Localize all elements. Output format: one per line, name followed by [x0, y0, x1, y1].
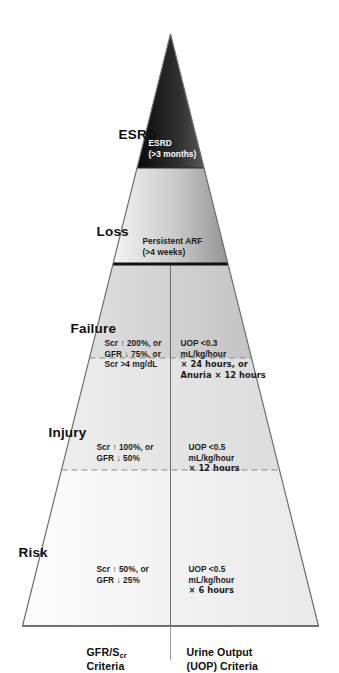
criteria-risk-uop-line-3: × 6 hours — [188, 585, 234, 596]
criteria-failure-uop-line-3: × 24 hours, or — [180, 359, 265, 370]
criteria-loss-line-2: (>4 weeks) — [142, 247, 202, 258]
axis-title-gfr-scr-line-1: GFR/Scr — [86, 646, 126, 660]
criteria-risk-gfr-scr-line-2: GFR ↓ 25% — [96, 575, 148, 586]
axis-title-urine-output-line-1: Urine Output — [186, 646, 257, 660]
stage-label-loss: Loss — [96, 223, 128, 240]
axis-title-gfr-scr-subscript: cr — [119, 651, 126, 660]
criteria-injury-gfr-scr: Scr ↑ 100%, or GFR ↓ 50% — [96, 442, 153, 463]
stage-label-risk: Risk — [18, 544, 47, 561]
criteria-loss-line-1: Persistent ARF — [142, 236, 202, 247]
criteria-injury-gfr-scr-line-2: GFR ↓ 50% — [96, 453, 153, 464]
criteria-esrd-line-1: ESRD — [148, 138, 196, 149]
axis-title-gfr-scr-text: GFR/S — [86, 646, 119, 658]
criteria-risk-uop-line-1: UOP <0.5 — [188, 564, 234, 575]
criteria-risk-gfr-scr-line-1: Scr ↑ 50%, or — [96, 564, 148, 575]
criteria-esrd-body: ESRD (>3 months) — [148, 138, 196, 159]
stage-label-failure: Failure — [70, 320, 116, 337]
criteria-failure-uop-line-4: Anuria × 12 hours — [180, 370, 265, 381]
criteria-injury-uop-line-2: mL/kg/hour — [188, 453, 239, 464]
criteria-failure-gfr-scr: Scr ↑ 200%, or GFR ↓ 75%, or Scr >4 mg/d… — [104, 338, 161, 370]
criteria-failure-uop: UOP <0.3 mL/kg/hour × 24 hours, or Anuri… — [180, 338, 265, 380]
criteria-risk-uop-line-2: mL/kg/hour — [188, 575, 234, 586]
criteria-failure-gfr-scr-line-3: Scr >4 mg/dL — [104, 359, 161, 370]
axis-title-gfr-scr-line-2: Criteria — [86, 660, 126, 673]
criteria-injury-uop-line-3: × 12 hours — [188, 463, 239, 474]
criteria-esrd-line-2: (>3 months) — [148, 149, 196, 160]
criteria-failure-gfr-scr-line-1: Scr ↑ 200%, or — [104, 338, 161, 349]
stage-label-injury: Injury — [48, 424, 86, 441]
axis-title-gfr-scr: GFR/Scr Criteria — [86, 646, 126, 673]
axis-title-urine-output: Urine Output (UOP) Criteria — [186, 646, 257, 673]
criteria-failure-uop-line-2: mL/kg/hour — [180, 349, 265, 360]
axis-title-urine-output-line-2: (UOP) Criteria — [186, 660, 257, 673]
criteria-failure-gfr-scr-line-2: GFR ↓ 75%, or — [104, 349, 161, 360]
criteria-risk-gfr-scr: Scr ↑ 50%, or GFR ↓ 25% — [96, 564, 148, 585]
criteria-failure-uop-line-1: UOP <0.3 — [180, 338, 265, 349]
criteria-injury-gfr-scr-line-1: Scr ↑ 100%, or — [96, 442, 153, 453]
criteria-loss-body: Persistent ARF (>4 weeks) — [142, 236, 202, 257]
criteria-risk-uop: UOP <0.5 mL/kg/hour × 6 hours — [188, 564, 234, 596]
criteria-injury-uop-line-1: UOP <0.5 — [188, 442, 239, 453]
criteria-injury-uop: UOP <0.5 mL/kg/hour × 12 hours — [188, 442, 239, 474]
